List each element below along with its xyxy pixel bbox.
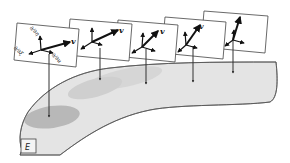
vector-v-label-1: v <box>71 36 76 46</box>
vector-v-label-4: v <box>199 21 204 31</box>
vector-v-label-2: v <box>119 25 124 35</box>
diagram-canvas: E v v <box>0 0 290 163</box>
tangent-space-diagram: E v v <box>0 0 290 163</box>
vector-v-label-3: v <box>160 26 165 36</box>
manifold-surface: E <box>20 61 277 155</box>
